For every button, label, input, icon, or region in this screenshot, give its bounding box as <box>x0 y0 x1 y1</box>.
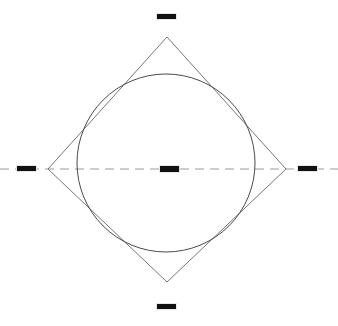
bottom-label-marker <box>156 303 177 310</box>
geometric-figure-canvas <box>0 0 338 326</box>
right-label-marker <box>297 165 318 172</box>
inscribed-circle <box>77 74 255 252</box>
left-label-marker <box>16 165 37 172</box>
figure-drawing <box>0 0 338 326</box>
center-label-marker <box>159 165 180 173</box>
top-label-marker <box>156 13 177 20</box>
